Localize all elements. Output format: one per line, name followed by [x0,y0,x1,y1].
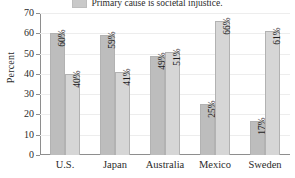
bar-value-label: 41% [123,68,133,85]
bar[interactable]: 61% [265,31,280,155]
y-tick-label: 10 [24,130,34,140]
plot-area: 010203040506070 60%40%59%41%49%51%25%66%… [40,13,290,155]
chart-figure: Primary cause is societal injustice. Per… [0,0,295,178]
y-tick-label: 30 [24,89,34,99]
y-tick-label: 0 [29,150,34,160]
bar-value-label: 61% [273,28,283,45]
y-tick-label: 50 [24,49,34,59]
bar-value-label: 40% [73,70,83,87]
x-axis-category-label: U.S. [40,159,90,171]
bar[interactable]: 41% [115,72,130,155]
chart-legend: Primary cause is societal injustice. [0,0,295,9]
bar-value-label: 60% [58,30,68,47]
bar-value-label: 51% [173,48,183,65]
bar-group: 25%66% [190,13,240,155]
legend-swatch-societal-injustice [72,0,87,8]
x-axis-category-label: Australia [140,159,190,171]
bar[interactable]: 17% [250,121,265,155]
bar[interactable]: 66% [215,21,230,155]
y-tick-label: 40 [24,69,34,79]
bar[interactable]: 60% [50,33,65,155]
bar-group: 59%41% [90,13,140,155]
y-axis-title: Percent [5,38,16,98]
y-tick-label: 60 [24,28,34,38]
bar[interactable]: 59% [100,35,115,155]
x-axis-category-label: Japan [90,159,140,171]
x-axis-category-label: Mexico [190,159,240,171]
bar-value-label: 59% [108,32,118,49]
y-tick-mark [36,155,40,156]
bar-groups: 60%40%59%41%49%51%25%66%17%61% [40,13,290,155]
x-axis-labels: U.S.JapanAustraliaMexicoSweden [40,159,290,171]
legend-label-societal-injustice: Primary cause is societal injustice. [91,0,222,8]
bar[interactable]: 25% [200,104,215,155]
bar-group: 49%51% [140,13,190,155]
bar-value-label: 66% [223,17,233,34]
bar[interactable]: 49% [150,56,165,155]
bar[interactable]: 40% [65,74,80,155]
bar-group: 17%61% [240,13,290,155]
bar[interactable]: 51% [165,52,180,155]
y-tick-label: 20 [24,109,34,119]
y-tick-label: 70 [24,8,34,18]
bar-group: 60%40% [40,13,90,155]
x-axis-category-label: Sweden [240,159,290,171]
